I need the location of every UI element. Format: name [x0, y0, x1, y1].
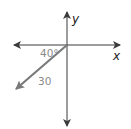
x-axis-label: x [112, 49, 121, 63]
y-axis-label: y [71, 12, 80, 26]
magnitude-label: 30 [38, 75, 51, 87]
vector-diagram: y x 40° 30 [0, 0, 131, 129]
angle-label: 40° [40, 47, 59, 59]
